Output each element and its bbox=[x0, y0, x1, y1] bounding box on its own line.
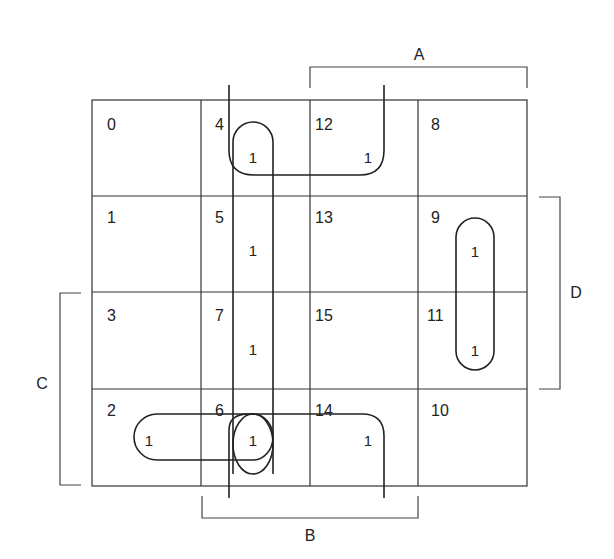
cell-index: 13 bbox=[315, 209, 333, 226]
label-d: D bbox=[570, 284, 582, 301]
label-c: C bbox=[36, 375, 48, 392]
bracket-d: D bbox=[539, 197, 582, 389]
cell-index: 0 bbox=[107, 116, 116, 133]
label-a: A bbox=[414, 46, 425, 63]
cell-index: 1 bbox=[107, 209, 116, 226]
bracket-b: B bbox=[202, 496, 418, 544]
cell-index: 8 bbox=[431, 116, 440, 133]
label-b: B bbox=[305, 527, 316, 544]
kmap-grid bbox=[92, 100, 527, 486]
cell-value: 1 bbox=[364, 149, 372, 166]
cell-index: 5 bbox=[215, 209, 224, 226]
cell-value: 1 bbox=[145, 432, 153, 449]
cell-index: 12 bbox=[315, 116, 333, 133]
cell-value: 1 bbox=[364, 432, 372, 449]
cell-value: 1 bbox=[249, 432, 257, 449]
bracket-c: C bbox=[36, 293, 81, 485]
cell-index: 3 bbox=[107, 307, 116, 324]
cell-index: 15 bbox=[315, 307, 333, 324]
cell-value: 1 bbox=[249, 341, 257, 358]
cell-index: 4 bbox=[215, 116, 224, 133]
cell-value: 1 bbox=[471, 243, 479, 260]
bracket-a: A bbox=[310, 46, 527, 88]
cell-index: 9 bbox=[431, 209, 440, 226]
cell-indices: 0 4 12 8 1 5 13 9 3 7 15 11 2 6 14 10 bbox=[107, 116, 449, 419]
cell-value: 1 bbox=[249, 149, 257, 166]
cell-value: 1 bbox=[249, 242, 257, 259]
cell-index: 7 bbox=[215, 307, 224, 324]
cell-value: 1 bbox=[471, 342, 479, 359]
cell-index: 6 bbox=[215, 402, 224, 419]
karnaugh-map-diagram: A B C D 0 4 12 8 1 5 13 9 3 7 15 11 2 6 … bbox=[0, 0, 614, 559]
cell-values: 1 1 1 1 1 1 1 1 1 bbox=[145, 149, 479, 449]
cell-index: 10 bbox=[431, 402, 449, 419]
cell-index: 11 bbox=[427, 307, 444, 324]
cell-index: 14 bbox=[315, 402, 333, 419]
cell-index: 2 bbox=[107, 402, 116, 419]
